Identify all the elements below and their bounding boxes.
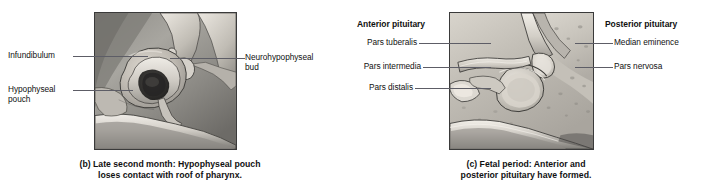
leader-line-neurohypophyseal-bud (170, 58, 245, 59)
panel-b-illustration (94, 12, 237, 150)
label-pars-distalis: Pars distalis (353, 83, 413, 93)
label-infundibulum: Infundibulum (8, 51, 55, 61)
label-pars-tuberalis: Pars tuberalis (353, 38, 417, 48)
panel-c-caption-line-2: posterior pituitary have formed. (391, 170, 661, 181)
label-pars-nervosa-text: Pars nervosa (614, 61, 662, 71)
leader-line-median-eminence (575, 43, 613, 44)
figure-root: Infundibulum Hypophyseal pouch Neurohypo… (0, 0, 706, 196)
label-neurohypophyseal-bud: Neurohypophyseal bud (245, 53, 313, 72)
label-pars-tuberalis-text: Pars tuberalis (367, 37, 417, 47)
heading-anterior-pituitary-text: Anterior pituitary (357, 19, 425, 29)
leader-line-infundibulum (73, 56, 148, 57)
label-pars-intermedia: Pars intermedia (353, 62, 421, 72)
label-pars-nervosa: Pars nervosa (614, 62, 662, 72)
leader-line-pars-tuberalis (419, 43, 491, 44)
panel-b-caption: (b) Late second month: Hypophyseal pouch… (30, 159, 310, 181)
leader-line-pars-distalis (415, 88, 491, 89)
label-pars-intermedia-text: Pars intermedia (364, 61, 421, 71)
label-median-eminence-text: Median eminence (614, 37, 679, 47)
panel-b-caption-line-2: loses contact with roof of pharynx. (30, 170, 310, 181)
panel-b-artwork (95, 13, 236, 149)
heading-anterior-pituitary: Anterior pituitary (357, 20, 425, 30)
leader-line-pars-intermedia (423, 67, 491, 68)
leader-line-pars-nervosa (575, 67, 613, 68)
label-median-eminence: Median eminence (614, 38, 679, 48)
panel-c-artwork (450, 13, 593, 149)
leader-line-hypophyseal-pouch (73, 90, 133, 91)
panel-c: Anterior pituitary Pars tuberalis Pars i… (353, 0, 706, 196)
panel-b: Infundibulum Hypophyseal pouch Neurohypo… (0, 0, 353, 196)
label-neurohypophyseal-bud-line-2: bud (245, 63, 313, 73)
panel-c-caption-line-1: (c) Fetal period: Anterior and (391, 159, 661, 170)
panel-c-illustration (449, 12, 594, 150)
label-pars-distalis-text: Pars distalis (369, 82, 413, 92)
heading-posterior-pituitary-text: Posterior pituitary (605, 19, 677, 29)
panel-c-caption: (c) Fetal period: Anterior and posterior… (391, 159, 661, 181)
heading-posterior-pituitary: Posterior pituitary (605, 20, 677, 30)
panel-b-caption-line-1: (b) Late second month: Hypophyseal pouch (30, 159, 310, 170)
label-infundibulum-line-1: Infundibulum (8, 50, 55, 60)
label-hypophyseal-pouch: Hypophyseal pouch (8, 85, 55, 104)
label-hypophyseal-pouch-line-2: pouch (8, 95, 55, 105)
